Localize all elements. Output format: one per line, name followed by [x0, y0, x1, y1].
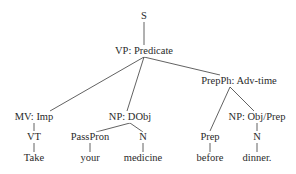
edge-prepph-prep [210, 87, 230, 131]
node-mv-imp: MV: Imp [14, 112, 55, 123]
node-vt: VT [26, 132, 42, 143]
node-np-dobj: NP: DObj [108, 112, 152, 123]
node-prepph-adv-time: PrepPh: Adv-time [200, 76, 278, 87]
word-your: your [79, 153, 100, 164]
word-dinner: dinner. [242, 153, 273, 164]
edge-vp-prepph [144, 57, 220, 75]
word-medicine: medicine [123, 153, 163, 164]
word-take: Take [23, 153, 45, 164]
node-np-obj-prep: NP: Obj/Prep [228, 112, 287, 123]
node-n-medicine: N [138, 132, 148, 143]
node-n-dinner: N [252, 132, 262, 143]
node-s: S [140, 11, 148, 22]
tree-edges [0, 0, 296, 174]
node-prep: Prep [199, 132, 220, 143]
word-before: before [196, 153, 225, 164]
node-vp-predicate: VP: Predicate [114, 46, 174, 57]
edge-prepph-np [230, 87, 254, 111]
node-passpron: PassPron [70, 132, 111, 143]
